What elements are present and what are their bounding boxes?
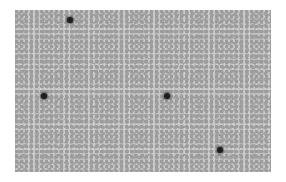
dark-cell (164, 93, 170, 99)
micrograph-image (15, 10, 271, 172)
dark-cell (67, 17, 73, 23)
dark-cell (41, 93, 47, 99)
dark-cell (217, 147, 223, 153)
